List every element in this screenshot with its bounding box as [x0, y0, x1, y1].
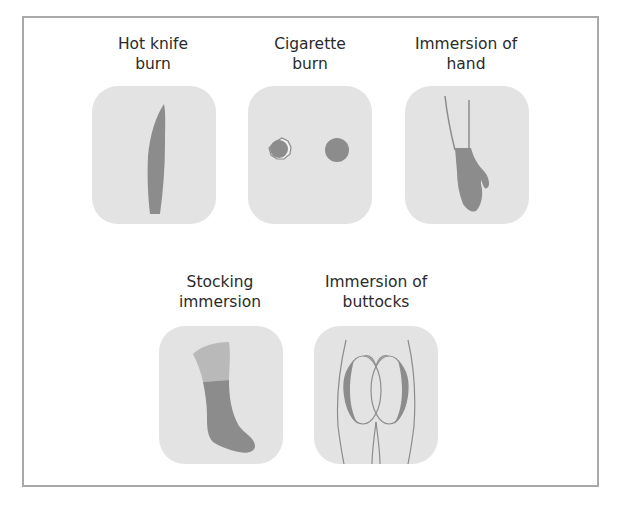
knife-burn-icon: [92, 86, 216, 224]
label-line: burn: [240, 54, 380, 74]
hot-knife-burn-label: Hot knife burn: [83, 34, 223, 74]
buttocks-immersion-icon: [314, 326, 438, 464]
immersion-of-buttocks-tile: [314, 326, 438, 464]
hand-immersion-icon: [405, 86, 529, 224]
label-line: immersion: [150, 292, 290, 312]
cigarette-burn-icon: [248, 86, 372, 224]
immersion-of-hand-tile: [405, 86, 529, 224]
label-line: Cigarette: [240, 34, 380, 54]
label-line: burn: [83, 54, 223, 74]
label-line: Immersion of: [396, 34, 536, 54]
stocking-immersion-label: Stocking immersion: [150, 272, 290, 312]
label-line: Hot knife: [83, 34, 223, 54]
immersion-of-hand-label: Immersion of hand: [396, 34, 536, 74]
label-line: Immersion of: [306, 272, 446, 292]
label-line: buttocks: [306, 292, 446, 312]
label-line: hand: [396, 54, 536, 74]
stocking-immersion-tile: [159, 326, 283, 464]
label-line: Stocking: [150, 272, 290, 292]
cigarette-burn-label: Cigarette burn: [240, 34, 380, 74]
hot-knife-burn-tile: [92, 86, 216, 224]
cigarette-burn-tile: [248, 86, 372, 224]
stocking-immersion-icon: [159, 326, 283, 464]
immersion-of-buttocks-label: Immersion of buttocks: [306, 272, 446, 312]
